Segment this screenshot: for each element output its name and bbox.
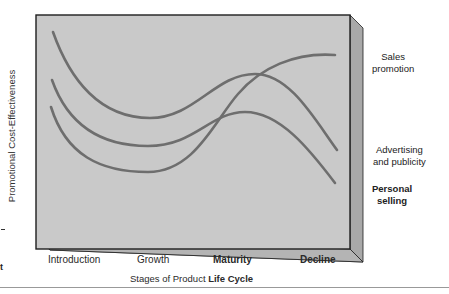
product-life-cycle-diagram: Promotional Cost-Effectiveness Introduct… bbox=[0, 0, 449, 294]
stage-introduction: Introduction bbox=[48, 254, 100, 265]
stage-growth: Growth bbox=[137, 254, 169, 265]
legend-sales-promotion: Sales promotion bbox=[372, 51, 414, 75]
stage-decline: Decline bbox=[300, 254, 336, 265]
y-axis-label: Promotional Cost-Effectiveness bbox=[4, 36, 18, 236]
stage-maturity: Maturity bbox=[213, 254, 252, 265]
legend-personal-selling: Personal selling bbox=[372, 183, 412, 207]
panel-right-side bbox=[350, 15, 363, 262]
panel-face bbox=[36, 15, 350, 249]
left-margin-dash bbox=[1, 229, 5, 230]
left-margin-fragment: t bbox=[0, 262, 3, 272]
bottom-rule bbox=[0, 287, 449, 288]
x-axis-label: Stages of Product Life Cycle bbox=[130, 273, 253, 284]
legend-advertising-and-publicity: Advertising and publicity bbox=[373, 144, 426, 168]
